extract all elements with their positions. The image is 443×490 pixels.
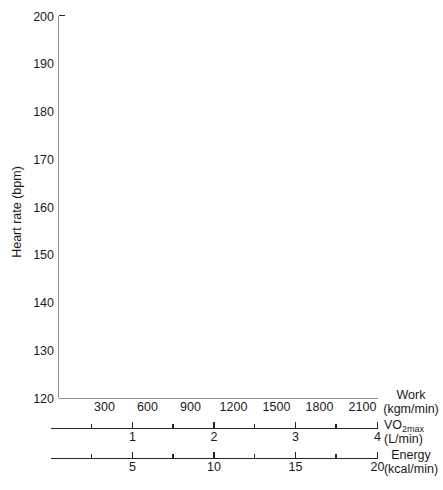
y-axis-title: Heart rate (bpm) <box>10 166 24 258</box>
plot-background <box>59 16 379 399</box>
y-tick-label-170: 170 <box>33 153 54 167</box>
y-tick-label-150: 150 <box>33 248 54 262</box>
work-tick-label-900: 900 <box>180 400 201 414</box>
energy-tick-label-10: 10 <box>207 460 221 474</box>
work-axis-title-name: Work <box>397 388 427 402</box>
energy-axis-title-name: Energy <box>391 448 431 462</box>
work-tick-label-1800: 1800 <box>306 400 334 414</box>
vo2max-tick-label-3: 3 <box>292 430 299 444</box>
vo2max-axis-title-unit: (L/min) <box>384 432 423 446</box>
work-tick-label-1500: 1500 <box>263 400 291 414</box>
x-axis-energy-group: 5 10 15 20 Energy (kcal/min) <box>51 448 439 476</box>
energy-tick-label-20: 20 <box>371 460 385 474</box>
x-axis-work-tick-labels: 300 600 900 1200 1500 1800 2100 <box>94 400 376 414</box>
y-axis-group: 200 190 180 170 160 150 140 130 120 Hear… <box>10 10 65 406</box>
y-tick-label-130: 130 <box>33 344 54 358</box>
vo2max-tick-label-1: 1 <box>129 430 136 444</box>
energy-axis-title-unit: (kcal/min) <box>384 462 438 476</box>
x-axis-energy-title: Energy (kcal/min) <box>384 448 438 476</box>
work-tick-label-300: 300 <box>94 400 115 414</box>
vo2max-title-o: O <box>392 418 402 432</box>
vo2max-tick-label-4: 4 <box>374 430 381 444</box>
y-tick-label-120: 120 <box>33 392 54 406</box>
x-axis-vo2max-tick-labels: 1 2 3 4 <box>129 430 381 444</box>
y-tick-label-160: 160 <box>33 201 54 215</box>
vo2max-tick-label-2: 2 <box>211 430 218 444</box>
chart-canvas: 200 190 180 170 160 150 140 130 120 Hear… <box>0 0 443 490</box>
y-tick-label-140: 140 <box>33 296 54 310</box>
y-tick-label-200: 200 <box>33 10 54 24</box>
energy-tick-label-15: 15 <box>289 460 303 474</box>
energy-tick-label-5: 5 <box>129 460 136 474</box>
work-tick-label-2100: 2100 <box>349 400 377 414</box>
y-axis-tick-labels: 200 190 180 170 160 150 140 130 120 <box>33 10 54 406</box>
y-tick-label-190: 190 <box>33 57 54 71</box>
chart-container: 200 190 180 170 160 150 140 130 120 Hear… <box>0 0 443 490</box>
plot-area <box>59 16 379 399</box>
work-tick-label-600: 600 <box>137 400 158 414</box>
x-axis-energy-tick-labels: 5 10 15 20 <box>129 460 384 474</box>
x-axis-vo2max-group: 1 2 3 4 ˙ VO2max (L/min) <box>51 409 425 446</box>
y-tick-label-180: 180 <box>33 105 54 119</box>
work-tick-label-1200: 1200 <box>220 400 248 414</box>
